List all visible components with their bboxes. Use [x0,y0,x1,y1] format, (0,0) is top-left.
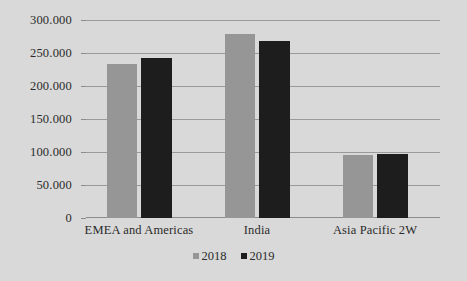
bar-asia-pacific-2w-2018[interactable] [343,155,373,218]
y-tick-label-200000: 200.000 [30,80,72,93]
plot-area [86,20,440,218]
x-tick-label-emea-and-americas: EMEA and Americas [85,224,194,237]
bar-emea-and-americas-2019[interactable] [141,58,172,218]
legend-swatch-2018-icon [193,253,199,259]
x-axis-labels: EMEA and Americas India Asia Pacific 2W [86,224,440,244]
x-tick-label-asia-pacific-2w: Asia Pacific 2W [333,224,417,237]
legend-item-2019[interactable]: 2019 [241,250,275,263]
bar-india-2018[interactable] [225,34,255,218]
bar-asia-pacific-2w-2019[interactable] [377,154,408,218]
legend-swatch-2019-icon [241,253,247,259]
y-tick-label-150000: 150.000 [30,113,72,126]
y-tick-label-250000: 250.000 [30,47,72,60]
y-tick-label-300000: 300.000 [30,14,72,27]
bar-india-2019[interactable] [259,41,290,218]
y-axis-tick-0 [81,218,86,219]
y-axis-labels: 0 50.000 100.000 150.000 200.000 250.000… [0,20,80,218]
chart-legend: 2018 2019 [0,250,467,263]
legend-item-2018[interactable]: 2018 [193,250,227,263]
y-tick-label-0: 0 [66,212,72,225]
y-tick-label-100000: 100.000 [30,146,72,159]
bar-emea-and-americas-2018[interactable] [107,64,137,218]
legend-label-2019: 2019 [250,250,275,263]
gridline-300000 [86,20,440,21]
y-tick-label-50000: 50.000 [36,179,72,192]
x-tick-label-india: India [244,224,270,237]
legend-label-2018: 2018 [202,250,227,263]
bar-chart: 0 50.000 100.000 150.000 200.000 250.000… [0,0,467,281]
